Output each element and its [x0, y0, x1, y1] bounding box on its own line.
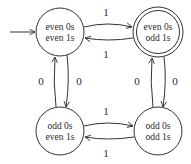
edge-label: 1	[103, 105, 109, 117]
state-even0-even1[interactable]: even 0s even 1s	[36, 8, 84, 56]
edge-oe-to-ee: 0	[38, 57, 56, 107]
state-label-line1: odd 0s	[145, 121, 170, 131]
state-odd0-odd1[interactable]: odd 0s odd 1s	[134, 107, 182, 155]
state-label-line1: even 0s	[144, 22, 173, 32]
state-label-line2: odd 1s	[145, 33, 170, 43]
edge-oe-to-oo: 1	[84, 105, 133, 126]
edge-label: 1	[103, 147, 109, 159]
edge-label: 0	[172, 75, 178, 87]
state-label-line1: even 0s	[46, 22, 75, 32]
edge-oo-to-oe: 1	[85, 137, 134, 159]
edge-label: 0	[76, 75, 82, 87]
edge-eo-to-oo: 0	[163, 57, 178, 107]
edge-label: 1	[103, 48, 109, 60]
edge-ee-to-eo: 1	[84, 6, 132, 27]
state-label-line2: even 1s	[46, 132, 75, 142]
state-label-line2: even 1s	[46, 33, 75, 43]
edge-label: 0	[38, 75, 44, 87]
state-diagram: even 0s even 1s even 0s odd 1s odd 0s ev…	[0, 0, 191, 164]
edge-label: 0	[134, 75, 140, 87]
edge-oo-to-eo: 0	[134, 58, 153, 107]
edge-ee-to-oe: 0	[66, 55, 82, 107]
state-odd0-even1[interactable]: odd 0s even 1s	[36, 107, 84, 155]
edge-eo-to-ee: 1	[85, 38, 133, 60]
state-label-line1: odd 0s	[47, 121, 72, 131]
state-label-line2: odd 1s	[145, 132, 170, 142]
state-even0-odd1-accepting[interactable]: even 0s odd 1s	[133, 7, 183, 57]
edge-label: 1	[103, 6, 109, 18]
